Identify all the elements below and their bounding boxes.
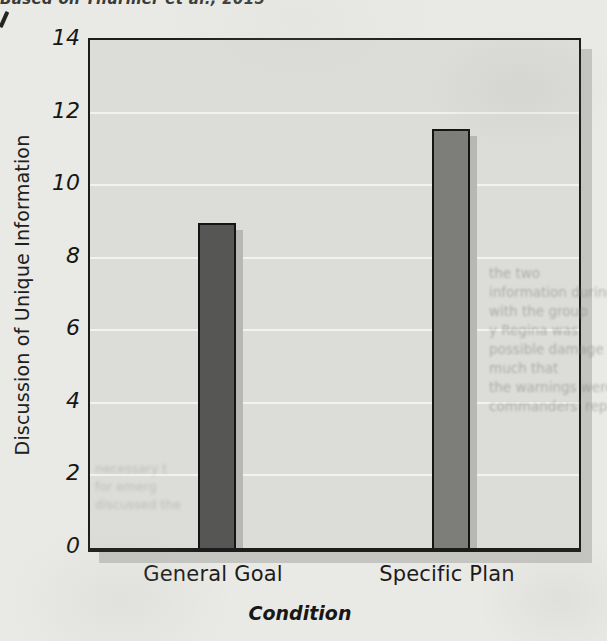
y-tick-label-14: 14 [28, 26, 80, 50]
gridline-y8 [90, 257, 579, 259]
y-tick-label-4: 4 [28, 389, 80, 413]
bar-general-goal [198, 223, 236, 548]
y-tick-label-2: 2 [28, 461, 80, 485]
scan-artifact-mark [0, 11, 9, 28]
y-tick-label-8: 8 [28, 244, 80, 268]
gridline-y6 [90, 329, 579, 331]
gridline-y2 [90, 474, 579, 476]
gridline-y4 [90, 402, 579, 404]
figure-caption-clipped: Based on Thürmer et al., 2015 [0, 0, 260, 8]
gridline-y10 [90, 184, 579, 186]
y-tick-label-6: 6 [28, 316, 80, 340]
x-axis-title: Condition [190, 602, 410, 624]
plot-area [88, 38, 581, 552]
bar-specific-plan [432, 129, 470, 548]
y-axis-title: Discussion of Unique Information [11, 115, 33, 475]
y-tick-label-12: 12 [28, 99, 80, 123]
x-category-label-specific-plan: Specific Plan [357, 562, 537, 586]
y-tick-label-0: 0 [28, 534, 80, 558]
gridline-y12 [90, 112, 579, 114]
x-category-label-general-goal: General Goal [123, 562, 303, 586]
y-tick-label-10: 10 [28, 171, 80, 195]
